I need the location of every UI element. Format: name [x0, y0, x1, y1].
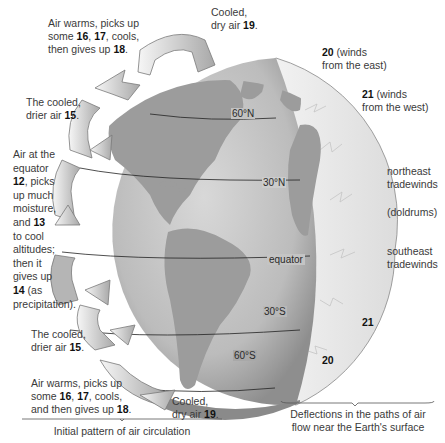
label-bottom-warm: Air warms, picks up some 16, 17, cools, … — [31, 377, 131, 416]
label-bottom-cooled-dry: Cooled, dry air 19. — [172, 395, 219, 421]
caption-initial-pattern: Initial pattern of air circulation — [22, 425, 222, 438]
label-20-south: 20 — [322, 354, 334, 367]
lat-label-30n: 30°N — [262, 177, 286, 188]
label-21-south: 21 — [362, 316, 374, 329]
globe — [62, 58, 321, 430]
label-winds-east: 20 (winds from the east) — [322, 46, 387, 72]
label-equator-air: Air at the equator 12, picks up much moi… — [13, 148, 76, 311]
bracket-right — [281, 401, 434, 406]
label-top-cooled-drier: The cooled, drier air 15. — [26, 96, 81, 122]
lat-label-30s: 30°S — [263, 306, 287, 317]
label-top-cooled-dry: Cooled, dry air 19. — [211, 6, 258, 32]
label-northeast-tradewinds: northeast tradewinds — [387, 165, 438, 191]
label-winds-west: 21 (winds from the west) — [362, 88, 429, 114]
label-top-warm: Air warms, picks up some 16, 17, cools, … — [48, 17, 139, 56]
arrow-loop-top — [138, 34, 215, 75]
arrow-head-upper — [90, 135, 112, 160]
label-southeast-tradewinds: southeast tradewinds — [387, 245, 438, 271]
label-doldrums: (doldrums) — [387, 206, 437, 219]
lat-label-equator: equator — [267, 254, 305, 265]
arrow-head-equator-s — [85, 280, 110, 305]
label-bottom-cooled-drier: The cooled, drier air 15. — [31, 328, 86, 354]
caption-deflections: Deflections in the paths of air flow nea… — [280, 408, 436, 434]
arrow-head-top-left — [95, 70, 140, 100]
lat-label-60s: 60°S — [233, 350, 257, 361]
arrow-head-lower — [110, 325, 135, 345]
lat-label-60n: 60°N — [231, 108, 255, 119]
